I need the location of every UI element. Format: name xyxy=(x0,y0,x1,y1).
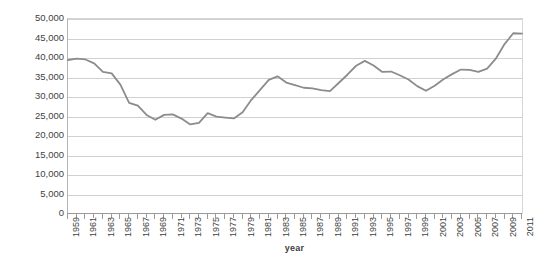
x-axis-tick-label: 1965 xyxy=(123,217,133,243)
x-axis-tick-label: 1975 xyxy=(211,217,221,243)
x-axis-tick-label: 1969 xyxy=(158,217,168,243)
x-axis-tick-label: 1979 xyxy=(246,217,256,243)
x-axis-tick-label: 1995 xyxy=(385,217,395,243)
x-axis-tick-label: 1991 xyxy=(350,217,360,243)
y-axis-tick-label: 25,000 xyxy=(12,111,64,121)
series-line-number-below-poverty-level xyxy=(68,33,522,124)
x-axis-tick-label: 1997 xyxy=(403,217,413,243)
x-axis-tick-label: 2007 xyxy=(490,217,500,243)
x-axis-tick-label: 2001 xyxy=(438,217,448,243)
x-axis-tick-label: 1999 xyxy=(420,217,430,243)
x-axis-tick-label: 1959 xyxy=(71,217,81,243)
x-axis-tick-label: 1985 xyxy=(298,217,308,243)
x-axis-tick-label: 2005 xyxy=(473,217,483,243)
x-axis-tick-label: 1977 xyxy=(228,217,238,243)
x-axis-title: year xyxy=(67,243,522,253)
plot-area xyxy=(67,18,523,214)
x-axis-tick-label: 1961 xyxy=(88,217,98,243)
x-axis-tick-label: 1973 xyxy=(193,217,203,243)
x-axis-tick-label: 1971 xyxy=(176,217,186,243)
y-axis-tick-labels: 50,00045,00040,00035,00030,00025,00020,0… xyxy=(12,0,64,258)
x-axis-tick-label: 1983 xyxy=(281,217,291,243)
y-axis-tick-label: 40,000 xyxy=(12,52,64,62)
y-axis-tick-label: 5,000 xyxy=(12,189,64,199)
x-axis-tick-label: 1987 xyxy=(315,217,325,243)
y-axis-tick-label: 30,000 xyxy=(12,91,64,101)
x-axis-tick-label: 2003 xyxy=(455,217,465,243)
y-axis-tick-label: 45,000 xyxy=(12,33,64,43)
y-axis-tick-label: 0 xyxy=(12,208,64,218)
y-axis-tick-label: 10,000 xyxy=(12,169,64,179)
x-axis-tick-label: 1963 xyxy=(106,217,116,243)
x-axis-tick-label: 1989 xyxy=(333,217,343,243)
y-axis-tick-label: 20,000 xyxy=(12,130,64,140)
poverty-line-chart: number below poverty level 50,00045,0004… xyxy=(0,0,534,258)
x-axis-tick-label: 1981 xyxy=(263,217,273,243)
series-layer xyxy=(68,19,522,214)
x-axis-tick-label: 2011 xyxy=(525,217,534,243)
x-axis-tick-label: 1967 xyxy=(141,217,151,243)
x-axis-tick-label: 2009 xyxy=(508,217,518,243)
y-axis-tick-label: 35,000 xyxy=(12,72,64,82)
x-axis-tick-label: 1993 xyxy=(368,217,378,243)
x-axis-tick-labels: 1959196119631965196719691971197319751977… xyxy=(67,219,522,245)
y-axis-tick-label: 50,000 xyxy=(12,13,64,23)
y-axis-tick-label: 15,000 xyxy=(12,150,64,160)
